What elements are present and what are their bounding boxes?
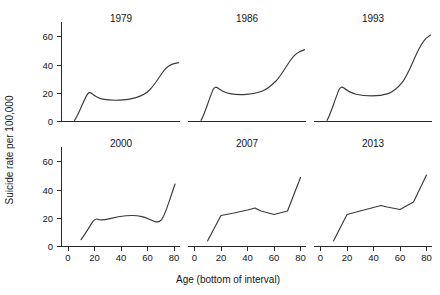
x-tick-label-2000-60: 60	[142, 252, 153, 263]
x-tick-label-2013-0: 0	[318, 252, 323, 263]
x-tick-label-2007-60: 60	[269, 252, 280, 263]
panel-title-2007: 2007	[236, 138, 259, 149]
y-tick-label-top-60: 60	[42, 31, 53, 42]
y-tick-label-top-20: 20	[42, 88, 53, 99]
x-tick-label-2007-80: 80	[295, 252, 306, 263]
y-tick-label-bottom-20: 20	[42, 213, 53, 224]
x-tick-label-2000-80: 80	[169, 252, 180, 263]
x-tick-label-2000-20: 20	[89, 252, 100, 263]
series-line-1986	[201, 50, 305, 121]
x-tick-label-2007-40: 40	[242, 252, 253, 263]
faceted-line-chart: Suicide rate per 100,000 Age (bottom of …	[0, 0, 440, 295]
x-tick-label-2007-20: 20	[216, 252, 227, 263]
panel-title-1993: 1993	[362, 13, 385, 24]
series-line-1979	[75, 63, 179, 121]
x-tick-label-2013-20: 20	[342, 252, 353, 263]
x-tick-label-2000-40: 40	[116, 252, 127, 263]
panel-title-1979: 1979	[110, 13, 133, 24]
series-line-2007	[208, 178, 301, 242]
y-tick-label-bottom-40: 40	[42, 185, 53, 196]
series-line-2013	[334, 175, 427, 241]
y-tick-label-top-0: 0	[48, 116, 53, 127]
y-tick-label-bottom-0: 0	[48, 241, 53, 252]
y-tick-label-bottom-60: 60	[42, 156, 53, 167]
x-tick-label-2013-60: 60	[395, 252, 406, 263]
y-axis-title: Suicide rate per 100,000	[4, 95, 15, 204]
panel-title-2013: 2013	[362, 138, 385, 149]
x-tick-label-2000-0: 0	[65, 252, 70, 263]
x-axis-title: Age (bottom of interval)	[176, 274, 280, 285]
series-line-2000	[81, 184, 175, 240]
x-tick-label-2007-0: 0	[192, 252, 197, 263]
panel-title-2000: 2000	[110, 138, 133, 149]
figure-container: Suicide rate per 100,000 Age (bottom of …	[0, 0, 440, 295]
panel-title-1986: 1986	[236, 13, 259, 24]
series-line-1993	[327, 35, 431, 120]
y-tick-label-top-40: 40	[42, 60, 53, 71]
x-tick-label-2013-80: 80	[421, 252, 432, 263]
x-tick-label-2013-40: 40	[368, 252, 379, 263]
